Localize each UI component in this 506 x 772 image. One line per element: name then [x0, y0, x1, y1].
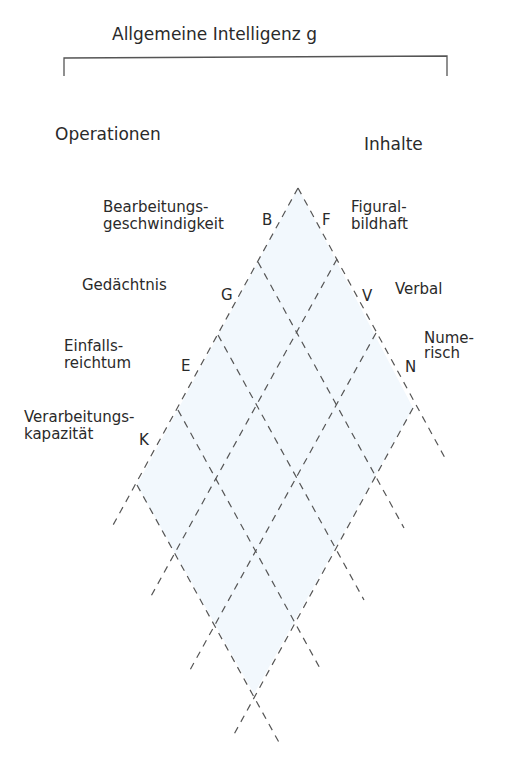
op-k-label: Verarbeitungs- kapazität	[24, 409, 134, 443]
content-n-letter: N	[405, 358, 416, 376]
op-b-label: Bearbeitungs- geschwindigkeit	[103, 199, 224, 233]
op-e-letter: E	[181, 357, 190, 375]
diamond-grid	[0, 0, 506, 772]
content-v-label: Verbal	[395, 281, 442, 298]
content-f-letter: F	[322, 211, 331, 229]
op-g-label: Gedächtnis	[82, 277, 167, 294]
content-n-label: Nume- risch	[424, 331, 474, 361]
title: Allgemeine Intelligenz g	[112, 26, 317, 43]
grid-fill	[137, 188, 413, 694]
contents-header: Inhalte	[364, 136, 423, 153]
operations-header: Operationen	[55, 126, 161, 143]
content-f-label: Figural- bildhaft	[351, 199, 408, 233]
op-b-letter: B	[262, 211, 272, 229]
bracket	[64, 56, 447, 76]
op-g-letter: G	[221, 286, 233, 304]
op-k-letter: K	[139, 431, 149, 449]
op-e-label: Einfalls- reichtum	[64, 338, 131, 372]
content-v-letter: V	[362, 287, 372, 305]
